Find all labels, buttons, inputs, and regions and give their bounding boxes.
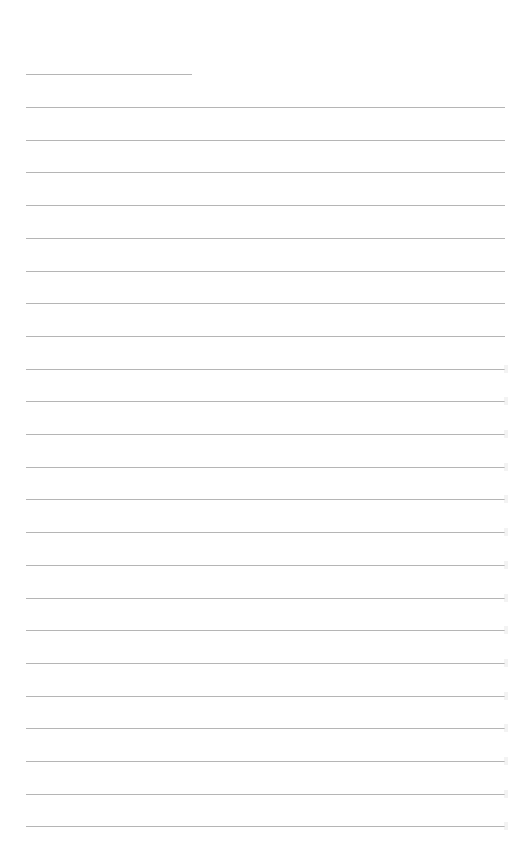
ruled-line	[26, 107, 505, 108]
ruled-line	[26, 663, 505, 664]
paper-edge-shadow	[504, 626, 508, 634]
paper-edge-shadow	[504, 528, 508, 536]
header-name-line	[26, 74, 192, 75]
ruled-line	[26, 172, 505, 173]
paper-edge-shadow	[504, 790, 508, 798]
ruled-line	[26, 467, 505, 468]
ruled-line	[26, 761, 505, 762]
ruled-line	[26, 140, 505, 141]
paper-edge-shadow	[504, 397, 508, 405]
ruled-line	[26, 401, 505, 402]
paper-edge-shadow	[504, 659, 508, 667]
ruled-line	[26, 499, 505, 500]
ruled-line	[26, 794, 505, 795]
paper-edge-shadow	[504, 495, 508, 503]
paper-edge-shadow	[504, 822, 508, 830]
paper-edge-shadow	[504, 365, 508, 373]
ruled-line	[26, 336, 505, 337]
paper-edge-shadow	[504, 757, 508, 765]
paper-edge-shadow	[504, 561, 508, 569]
paper-edge-shadow	[504, 463, 508, 471]
ruled-line	[26, 826, 505, 827]
paper-edge-shadow	[504, 430, 508, 438]
paper-edge-shadow	[504, 692, 508, 700]
ruled-line	[26, 630, 505, 631]
ruled-line	[26, 434, 505, 435]
ruled-line	[26, 303, 505, 304]
ruled-line	[26, 532, 505, 533]
paper-edge-shadow	[504, 594, 508, 602]
ruled-line	[26, 205, 505, 206]
ruled-line	[26, 565, 505, 566]
ruled-line	[26, 238, 505, 239]
ruled-line	[26, 369, 505, 370]
ruled-line	[26, 728, 505, 729]
ruled-line	[26, 696, 505, 697]
paper-edge-shadow	[504, 724, 508, 732]
ruled-line	[26, 271, 505, 272]
ruled-line	[26, 598, 505, 599]
